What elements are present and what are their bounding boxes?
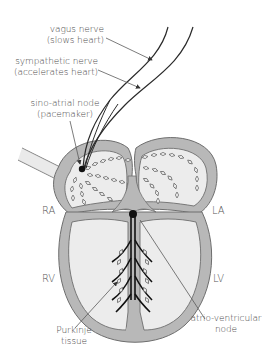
vagus-line2: (slows heart) [47,35,104,46]
heart-conduction-diagram [0,0,270,358]
sa-node [79,166,85,172]
sympathetic-line2: (accelerates heart) [14,67,98,78]
sa-node-line1: sino-atrial node [18,98,112,109]
av-node-label: atrio-ventricular node [184,313,268,335]
label-rv: RV [42,273,55,284]
av-node-line2: node [184,324,268,335]
sa-node-label: sino-atrial node (pacemaker) [18,98,112,120]
purkinje-line2: tissue [44,336,104,347]
sympathetic-nerve-label: sympathetic nerve (accelerates heart) [14,56,98,78]
sympathetic-line1: sympathetic nerve [14,56,98,67]
label-la: LA [212,205,224,216]
label-ra: RA [42,205,55,216]
label-lv: LV [213,273,224,284]
sa-node-line2: (pacemaker) [18,109,112,120]
av-node-line1: atrio-ventricular [184,313,268,324]
purkinje-line1: Purkinje [44,325,104,336]
vagus-nerve-label: vagus nerve (slows heart) [47,24,104,46]
vagus-line1: vagus nerve [47,24,104,35]
purkinje-label: Purkinje tissue [44,325,104,347]
